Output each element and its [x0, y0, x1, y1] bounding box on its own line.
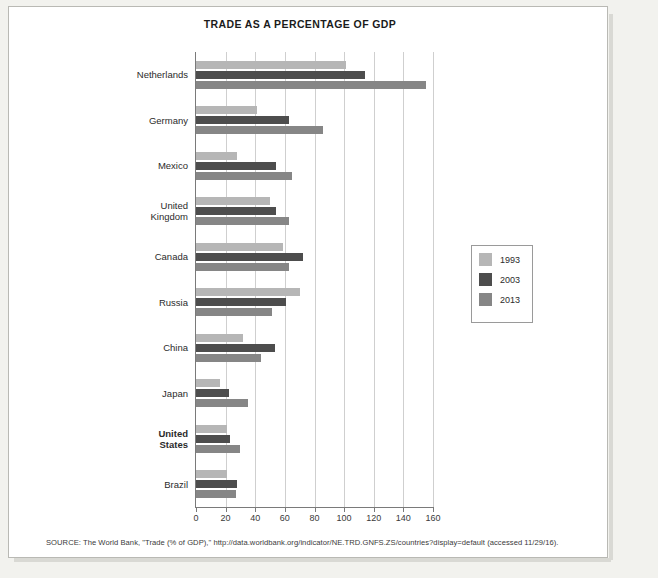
bar-1993 — [196, 106, 257, 114]
bar-2013 — [196, 263, 289, 271]
bar-1993 — [196, 470, 227, 478]
category-label: Germany — [68, 115, 188, 126]
bar-2003 — [196, 162, 276, 170]
axis-tick — [344, 507, 345, 512]
bar-group: Canada — [196, 243, 433, 271]
category-label: Netherlands — [68, 69, 188, 80]
bar-2003 — [196, 207, 276, 215]
axis-tick — [403, 507, 404, 512]
category-label: Brazil — [68, 479, 188, 490]
bar-2003 — [196, 298, 286, 306]
axis-tick — [374, 507, 375, 512]
category-label: Mexico — [68, 160, 188, 171]
bar-2013 — [196, 490, 236, 498]
bar-1993 — [196, 152, 237, 160]
axis-tick — [285, 507, 286, 512]
x-axis-tick-label: 140 — [396, 513, 411, 523]
axis-tick — [315, 507, 316, 512]
category-label: United Kingdom — [68, 200, 188, 222]
bar-2003 — [196, 71, 365, 79]
bar-group: Japan — [196, 379, 433, 407]
bar-1993 — [196, 334, 243, 342]
bar-1993 — [196, 243, 283, 251]
bar-2013 — [196, 126, 323, 134]
x-axis-tick-label: 80 — [309, 513, 319, 523]
chart-axes: 020406080100120140160NetherlandsGermanyM… — [195, 52, 433, 508]
bar-group: Germany — [196, 106, 433, 134]
x-axis-tick-label: 0 — [193, 513, 198, 523]
legend-item: 2013 — [479, 293, 532, 306]
axis-tick — [433, 507, 434, 512]
source-note: SOURCE: The World Bank, "Trade (% of GDP… — [46, 538, 559, 547]
bar-2013 — [196, 445, 240, 453]
legend-swatch — [479, 273, 492, 286]
bar-1993 — [196, 197, 270, 205]
axis-tick — [255, 507, 256, 512]
gridline — [433, 52, 434, 507]
chart-legend: 199320032013 — [471, 245, 533, 323]
bar-2013 — [196, 308, 272, 316]
legend-label: 2003 — [500, 275, 520, 285]
legend-label: 2013 — [500, 295, 520, 305]
bar-2013 — [196, 172, 292, 180]
bar-2003 — [196, 116, 289, 124]
legend-swatch — [479, 293, 492, 306]
category-label: United States — [68, 428, 188, 450]
category-label: China — [68, 342, 188, 353]
category-label: Canada — [68, 251, 188, 262]
bar-2003 — [196, 253, 303, 261]
bar-2003 — [196, 435, 230, 443]
chart-plot-area: 020406080100120140160NetherlandsGermanyM… — [195, 52, 440, 512]
bar-2013 — [196, 81, 426, 89]
x-axis-tick-label: 40 — [250, 513, 260, 523]
bar-2003 — [196, 480, 237, 488]
x-axis-tick-label: 60 — [280, 513, 290, 523]
bar-2013 — [196, 399, 248, 407]
bar-group: Brazil — [196, 470, 433, 498]
bar-1993 — [196, 61, 346, 69]
bar-2013 — [196, 354, 261, 362]
axis-tick — [196, 507, 197, 512]
bar-group: Netherlands — [196, 61, 433, 89]
bar-2003 — [196, 389, 229, 397]
bar-group: United Kingdom — [196, 197, 433, 225]
bar-2003 — [196, 344, 275, 352]
axis-tick — [226, 507, 227, 512]
category-label: Russia — [68, 297, 188, 308]
x-axis-tick-label: 20 — [221, 513, 231, 523]
x-axis-tick-label: 160 — [425, 513, 440, 523]
legend-label: 1993 — [500, 255, 520, 265]
x-axis-tick-label: 100 — [337, 513, 352, 523]
bar-1993 — [196, 379, 220, 387]
bar-group: Russia — [196, 288, 433, 316]
legend-item: 2003 — [479, 273, 532, 286]
x-axis-tick-label: 120 — [366, 513, 381, 523]
bar-1993 — [196, 288, 300, 296]
category-label: Japan — [68, 388, 188, 399]
bar-1993 — [196, 425, 227, 433]
chart-title: TRADE AS A PERCENTAGE OF GDP — [0, 18, 600, 30]
legend-swatch — [479, 253, 492, 266]
legend-item: 1993 — [479, 253, 532, 266]
bar-group: Mexico — [196, 152, 433, 180]
bar-group: United States — [196, 425, 433, 453]
bar-2013 — [196, 217, 289, 225]
bar-group: China — [196, 334, 433, 362]
